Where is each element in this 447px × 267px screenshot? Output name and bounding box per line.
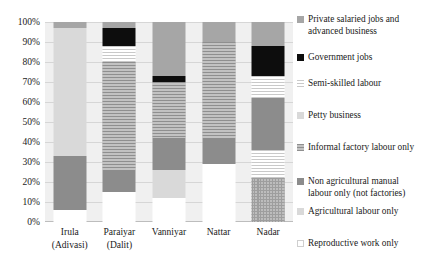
legend-item[interactable]: Petty business [297, 110, 447, 122]
x-axis-tick-label-line2: (Dalit) [95, 239, 145, 252]
bar-segment[interactable] [152, 82, 185, 138]
legend-item[interactable]: Agricultural labour only [297, 206, 447, 218]
legend-swatch-icon [297, 208, 304, 215]
x-axis-tick-label-line1: Vanniyar [152, 227, 186, 237]
bar-segment[interactable] [103, 28, 136, 46]
bar-segment[interactable] [152, 138, 185, 170]
bar-segment[interactable] [103, 46, 136, 62]
y-axis-tick-label: 10% [23, 197, 40, 207]
x-axis-tick-label-line1: Irula [61, 227, 79, 237]
bar-segment[interactable] [103, 62, 136, 170]
bar-segment[interactable] [53, 156, 86, 210]
legend-item[interactable]: Government jobs [297, 52, 447, 64]
legend-item-label: Government jobs [308, 52, 372, 64]
stacked-bar[interactable] [202, 22, 235, 222]
stacked-bar[interactable] [152, 22, 185, 222]
bar-segment[interactable] [252, 98, 285, 150]
bar-segment[interactable] [152, 170, 185, 198]
x-axis: Irula(Adivasi)Paraiyar(Dalit)VanniyarNat… [45, 226, 293, 266]
y-axis-tick-label: 40% [23, 137, 40, 147]
y-axis-tick-label: 60% [23, 97, 40, 107]
bar-segment[interactable] [252, 150, 285, 178]
legend-item-label: Private salaried jobs and advanced busin… [308, 14, 399, 37]
y-axis-tick-label: 0% [27, 217, 40, 227]
y-axis-tick-label: 80% [23, 57, 40, 67]
bar-segment[interactable] [202, 42, 235, 138]
bar-segment[interactable] [202, 138, 235, 164]
bar-slot [194, 22, 244, 222]
legend-swatch-icon [297, 144, 304, 151]
plot-area-wrapper: 100%90%80%70%60%50%40%30%20%10%0% Irula(… [0, 0, 300, 267]
y-axis-tick-label: 90% [23, 37, 40, 47]
bar-segment[interactable] [252, 178, 285, 222]
x-axis-tick-label: Paraiyar(Dalit) [95, 226, 145, 252]
y-axis-tick-label: 30% [23, 157, 40, 167]
bar-segment[interactable] [103, 170, 136, 192]
x-axis-tick-label-line1: Paraiyar [104, 227, 136, 237]
x-axis-tick-label-line1: Nadar [257, 227, 280, 237]
legend-item-label: Petty business [308, 110, 361, 122]
legend-item[interactable]: Semi-skilled labour [297, 78, 447, 90]
y-axis-tick-label: 20% [23, 177, 40, 187]
legend-swatch-icon [297, 112, 304, 119]
bar-slot [45, 22, 95, 222]
x-axis-tick-label: Nadar [243, 226, 293, 239]
legend-swatch-icon [297, 178, 304, 185]
x-axis-tick-label: Vanniyar [144, 226, 194, 239]
stacked-bar[interactable] [53, 22, 86, 222]
legend-swatch-icon [297, 16, 304, 23]
bar-slot [243, 22, 293, 222]
bar-segment[interactable] [152, 22, 185, 76]
legend-swatch-icon [297, 80, 304, 87]
stacked-bar[interactable] [103, 22, 136, 222]
bar-segment[interactable] [152, 198, 185, 222]
legend-item[interactable]: Informal factory labour only [297, 142, 447, 154]
legend-item-label: Semi-skilled labour [308, 78, 381, 90]
legend-swatch-icon [297, 54, 304, 61]
stacked-bar[interactable] [252, 22, 285, 222]
bar-segment[interactable] [103, 192, 136, 222]
y-axis-tick-label: 70% [23, 77, 40, 87]
legend-item-label: Non agricultural manual labour only (not… [308, 176, 405, 199]
legend-item-label: Informal factory labour only [308, 142, 414, 154]
legend-item[interactable]: Non agricultural manual labour only (not… [297, 176, 447, 199]
legend-item[interactable]: Reproductive work only [297, 238, 447, 250]
bar-slot [144, 22, 194, 222]
chart-legend: Private salaried jobs and advanced busin… [297, 0, 447, 267]
x-axis-tick-label: Irula(Adivasi) [45, 226, 95, 252]
legend-item[interactable]: Private salaried jobs and advanced busin… [297, 14, 447, 37]
legend-item-label: Reproductive work only [308, 238, 398, 250]
bar-segment[interactable] [53, 210, 86, 222]
y-axis-tick-label: 50% [23, 117, 40, 127]
bar-slot [95, 22, 145, 222]
bar-segment[interactable] [53, 28, 86, 156]
stacked-bar-chart: 100%90%80%70%60%50%40%30%20%10%0% Irula(… [0, 0, 447, 267]
y-axis: 100%90%80%70%60%50%40%30%20%10%0% [0, 16, 44, 228]
x-axis-tick-label: Nattar [194, 226, 244, 239]
bar-segment[interactable] [252, 22, 285, 46]
x-axis-tick-label-line1: Nattar [207, 227, 231, 237]
y-axis-tick-label: 100% [18, 17, 40, 27]
bar-segment[interactable] [252, 46, 285, 76]
bar-segment[interactable] [252, 76, 285, 98]
x-axis-tick-label-line2: (Adivasi) [45, 239, 95, 252]
legend-item-label: Agricultural labour only [308, 206, 398, 218]
bar-segment[interactable] [202, 22, 235, 42]
bar-segment[interactable] [202, 164, 235, 222]
legend-swatch-icon [297, 240, 304, 247]
plot-area [45, 22, 293, 222]
